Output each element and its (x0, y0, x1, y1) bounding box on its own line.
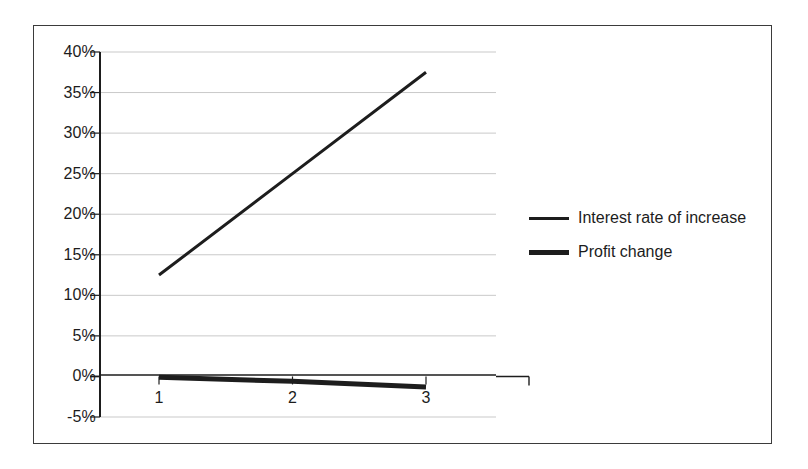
legend-item-profit-change: Profit change (529, 235, 773, 269)
legend-item-label: Interest rate of increase (578, 209, 746, 227)
legend-line-swatch-icon (529, 217, 569, 220)
x-axis-tick-label: 3 (422, 390, 431, 406)
legend-line-swatch-icon (529, 250, 569, 255)
x-axis-tick-label: 1 (155, 390, 164, 406)
x-axis-tick-label: 2 (288, 390, 297, 406)
legend-item-label: Profit change (578, 243, 672, 261)
chart-border-frame: 40%35%30%25%20%15%10%5%0%-5% 123 Interes… (33, 25, 772, 444)
legend-item-interest-rate-of-increase: Interest rate of increase (529, 201, 773, 235)
chart-legend: Interest rate of increase Profit change (529, 201, 773, 269)
